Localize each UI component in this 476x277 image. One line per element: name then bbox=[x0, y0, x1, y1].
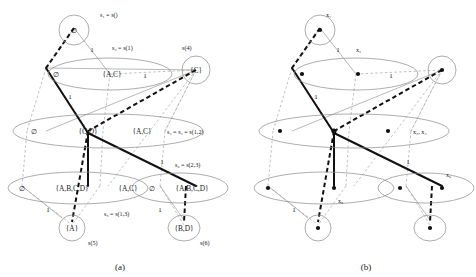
edge-weight-a-0: 1 bbox=[90, 46, 94, 54]
label-b-x1: x₁ bbox=[326, 11, 331, 18]
label-a-row3-item-1: {C,D} bbox=[78, 127, 97, 136]
label-a-leaf-left-set: {A} bbox=[66, 224, 78, 233]
state-label-a-s2: s₂ = s(1) bbox=[112, 44, 133, 52]
label-a-row4r-item-1: {A,B,C,D} bbox=[175, 184, 208, 193]
panel-b-dashed-thick-edges bbox=[292, 28, 442, 222]
edge-weight-a-5: 1 bbox=[158, 206, 162, 214]
label-a-row3-item-2: {A,C} bbox=[132, 127, 151, 136]
panel-a: ∅ ∅ {A,C} {C} ∅ {C,D} {A,C} ∅ {A,B,C,D} … bbox=[8, 11, 228, 272]
edge-weight-a-1: 1 bbox=[68, 93, 72, 101]
state-label-a-s6-leaf: s(6) bbox=[200, 239, 210, 247]
label-b-x5: x₅ bbox=[338, 197, 343, 204]
panel-a-dashed-thin-edges bbox=[22, 28, 196, 225]
panel-b-caption: (b) bbox=[361, 262, 372, 272]
label-b-x2: x₂ bbox=[356, 46, 361, 53]
label-a-row4l-item-1: {A,B,C,D} bbox=[55, 184, 88, 193]
edge-weight-b-2: 1 bbox=[389, 72, 393, 80]
panel-a-caption: (a) bbox=[115, 262, 125, 272]
label-a-c-set: {C} bbox=[190, 66, 202, 75]
label-a-row2-item-0: ∅ bbox=[53, 70, 59, 79]
label-a-row2-item-1: {A,C} bbox=[102, 70, 121, 79]
node-ellipse-b-x5 bbox=[254, 172, 394, 204]
edge-weight-b-0: 1 bbox=[336, 46, 340, 54]
label-a-row4l-item-0: ∅ bbox=[19, 184, 25, 193]
label-b-x34: x₃, x₄ bbox=[413, 128, 427, 135]
panel-b-dashed-thin-edges bbox=[268, 28, 442, 225]
edge-weight-b-4: 1 bbox=[292, 206, 296, 214]
label-a-leaf-right-set: {B,D} bbox=[174, 224, 193, 233]
panel-b: x₁ x₂ x₃, x₄ x₅ x₆ 1 1 1 1 1 (b) bbox=[254, 11, 474, 272]
state-label-a-s3s4: s₃ = s₄ = s(1,2) bbox=[167, 128, 204, 136]
state-label-a-s1: s₁ = s() bbox=[100, 11, 118, 19]
state-label-a-s6: s₆ = s(2,3) bbox=[175, 161, 200, 169]
panel-b-solid-thin-edges bbox=[268, 28, 442, 220]
state-label-a-s4: s(4) bbox=[182, 44, 192, 52]
label-b-x6: x₆ bbox=[446, 171, 451, 178]
label-a-row4r-item-0: ∅ bbox=[149, 184, 155, 193]
edge-weight-a-3: 1 bbox=[160, 158, 164, 166]
edge-weight-b-3: 1 bbox=[406, 158, 410, 166]
edge-weight-a-4: 1 bbox=[46, 206, 50, 214]
figure-svg: ∅ ∅ {A,C} {C} ∅ {C,D} {A,C} ∅ {A,B,C,D} … bbox=[0, 0, 476, 277]
edge-weight-b-1: 1 bbox=[314, 93, 318, 101]
edge-weight-a-2: 1 bbox=[143, 72, 147, 80]
label-a-top-set: ∅ bbox=[71, 26, 77, 35]
label-a-row3-item-0: ∅ bbox=[31, 127, 37, 136]
state-label-a-s5: s₅ = s(1,3) bbox=[104, 210, 129, 218]
figure-root: ∅ ∅ {A,C} {C} ∅ {C,D} {A,C} ∅ {A,B,C,D} … bbox=[0, 0, 476, 277]
label-a-row4l-item-2: {A,C} bbox=[118, 184, 137, 193]
panel-a-solid-thin-edges bbox=[22, 28, 196, 220]
state-label-a-s5-leaf: s(5) bbox=[88, 239, 98, 247]
